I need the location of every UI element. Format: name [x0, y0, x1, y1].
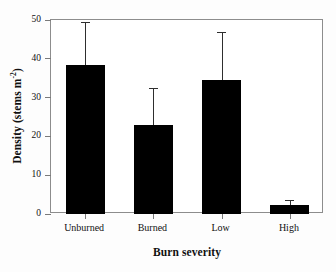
x-axis-tick-label: Burned [117, 222, 187, 233]
bar [270, 205, 309, 214]
error-bar-line [153, 88, 154, 126]
y-axis-tick [45, 175, 51, 176]
y-axis-tick-label: 50 [11, 14, 41, 24]
y-axis-tick [45, 20, 51, 21]
error-bar-line [85, 22, 86, 64]
x-axis-tick-label: Low [186, 222, 256, 233]
y-axis-title-exponent: -2 [9, 72, 18, 78]
y-axis-title: Density (stems m-2) [8, 19, 26, 213]
bar-chart-figure: Density (stems m-2) Burn severity 010203… [0, 0, 336, 272]
plot-area [50, 19, 323, 213]
y-axis-title-tail: ) [11, 68, 23, 72]
error-bar-cap [149, 88, 158, 89]
bar [202, 80, 241, 214]
error-bar-line [222, 32, 223, 80]
y-axis-tick [45, 97, 51, 98]
x-axis-tick-label: High [254, 222, 324, 233]
x-axis-title: Burn severity [50, 246, 324, 258]
y-axis-tick [45, 214, 51, 215]
bar [134, 125, 173, 214]
error-bar-cap [81, 22, 90, 23]
y-axis-tick [45, 58, 51, 59]
bar [66, 65, 105, 214]
error-bar-cap [217, 32, 226, 33]
y-axis-tick-label: 40 [11, 53, 41, 63]
y-axis-tick-label: 0 [11, 208, 41, 218]
y-axis-tick-label: 10 [11, 169, 41, 179]
y-axis-tick-label: 20 [11, 130, 41, 140]
y-axis-tick [45, 136, 51, 137]
y-axis-tick-label: 30 [11, 92, 41, 102]
x-axis-tick-label: Unburned [49, 222, 119, 233]
error-bar-cap [285, 200, 294, 201]
